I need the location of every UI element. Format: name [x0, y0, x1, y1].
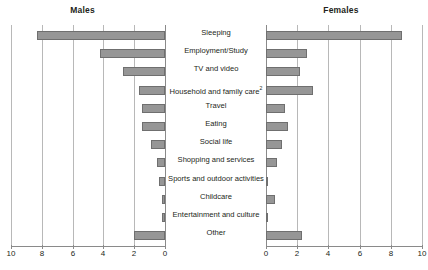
tick-mark-males-6: [73, 245, 74, 249]
panel-title-females: Females: [255, 5, 427, 15]
bar-row: [266, 173, 422, 191]
bar-males[interactable]: [134, 231, 165, 240]
bar-row: [11, 136, 165, 154]
tick-mark-males-8: [42, 245, 43, 249]
bar-row: [11, 100, 165, 118]
bar-row: [266, 118, 422, 136]
tick-mark-females-6: [360, 245, 361, 249]
tick-label-males-2: 2: [124, 249, 144, 258]
tick-label-males-6: 6: [63, 249, 83, 258]
bar-row: [266, 45, 422, 63]
category-label: Eating: [162, 119, 270, 129]
x-axis-ticks-males: 1086420: [11, 249, 165, 263]
bar-row: [266, 136, 422, 154]
tick-label-males-10: 10: [1, 249, 21, 258]
bar-row: [266, 227, 422, 245]
category-label: Childcare: [162, 192, 270, 202]
bar-females[interactable]: [266, 231, 302, 240]
bar-row: [11, 227, 165, 245]
category-label: Other: [162, 228, 270, 238]
category-label: Household and family care2: [162, 83, 270, 97]
bar-row: [11, 118, 165, 136]
bar-females[interactable]: [266, 67, 300, 76]
bar-row: [266, 154, 422, 172]
bar-row: [266, 100, 422, 118]
tick-mark-males-10: [11, 245, 12, 249]
plot-area-females: [266, 25, 422, 247]
tick-mark-females-0: [266, 245, 267, 249]
bar-row: [11, 173, 165, 191]
chart-container: Males Females SleepingEmployment/StudyTV…: [0, 0, 428, 270]
category-label: Sleeping: [162, 28, 270, 38]
bar-males[interactable]: [123, 67, 165, 76]
bar-row: [11, 209, 165, 227]
tick-label-males-8: 8: [32, 249, 52, 258]
bar-females[interactable]: [266, 86, 313, 95]
bar-row: [266, 63, 422, 81]
bar-row: [266, 209, 422, 227]
tick-label-females-2: 2: [287, 249, 307, 258]
category-label: TV and video: [162, 64, 270, 74]
tick-label-females-8: 8: [381, 249, 401, 258]
category-label: Entertainment and culture: [162, 210, 270, 220]
category-label: Travel: [162, 101, 270, 111]
category-label: Employment/Study: [162, 46, 270, 56]
tick-mark-males-2: [134, 245, 135, 249]
bar-row: [11, 45, 165, 63]
tick-mark-males-0: [165, 245, 166, 249]
footnote-marker: 2: [260, 85, 263, 91]
bar-row: [11, 27, 165, 45]
bar-row: [11, 63, 165, 81]
gridline-females-10: [422, 25, 423, 247]
bar-row: [11, 82, 165, 100]
bar-females[interactable]: [266, 49, 307, 58]
tick-mark-females-8: [391, 245, 392, 249]
category-label: Sports and outdoor activities: [162, 174, 270, 184]
tick-label-females-6: 6: [350, 249, 370, 258]
bar-males[interactable]: [37, 31, 165, 40]
bar-row: [266, 27, 422, 45]
category-label: Shopping and services: [162, 155, 270, 165]
tick-label-males-0: 0: [155, 249, 175, 258]
plot-area-males: [11, 25, 165, 247]
tick-mark-females-10: [422, 245, 423, 249]
bar-row: [11, 154, 165, 172]
category-label-column: SleepingEmployment/StudyTV and videoHous…: [166, 25, 266, 247]
bar-females[interactable]: [266, 31, 402, 40]
tick-mark-males-4: [103, 245, 104, 249]
category-label: Social life: [162, 137, 270, 147]
bar-males[interactable]: [100, 49, 165, 58]
bar-row: [266, 82, 422, 100]
bar-row: [11, 191, 165, 209]
bar-row: [266, 191, 422, 209]
tick-label-males-4: 4: [93, 249, 113, 258]
x-axis-ticks-females: 0246810: [266, 249, 422, 263]
tick-mark-females-2: [297, 245, 298, 249]
panel-title-males: Males: [0, 5, 165, 15]
tick-mark-females-4: [328, 245, 329, 249]
tick-label-females-4: 4: [318, 249, 338, 258]
x-axis-line-females: [266, 246, 422, 247]
tick-label-females-10: 10: [412, 249, 428, 258]
x-axis-line-males: [11, 246, 165, 247]
tick-label-females-0: 0: [256, 249, 276, 258]
